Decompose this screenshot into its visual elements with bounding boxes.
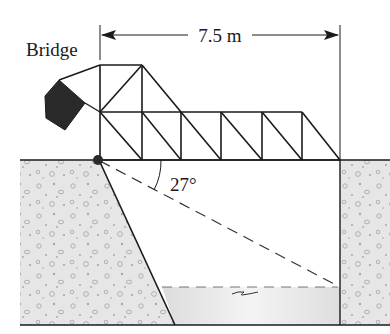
drawbridge-truss	[100, 65, 340, 160]
counterweight-arm-top	[59, 65, 100, 80]
left-bank-concrete	[20, 160, 175, 325]
span-label: 7.5 m	[198, 25, 242, 46]
bridge-label: Bridge	[26, 39, 78, 60]
counterweight-block	[45, 80, 85, 130]
drawbridge-diagram: 27° 7.5 m Bridge	[0, 0, 390, 334]
right-bank-concrete	[340, 160, 390, 325]
angle-arc	[154, 160, 161, 190]
counterweight-arm-bottom	[85, 103, 100, 112]
hinge-pivot	[93, 155, 103, 165]
angle-label: 27°	[170, 174, 197, 195]
river-water	[162, 287, 340, 325]
